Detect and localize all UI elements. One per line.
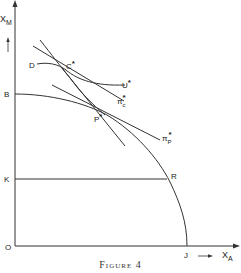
curve-label-pi-c: πc* <box>117 93 127 108</box>
curve-label-u-star: U* <box>122 78 132 90</box>
point-label-p-star: P* <box>94 112 103 124</box>
point-label-r: R <box>171 172 177 181</box>
point-label-b: B <box>4 90 9 99</box>
price-line-pi-c <box>33 46 124 101</box>
y-axis-arrowhead-icon <box>13 0 18 7</box>
indifference-curve-u-star <box>37 63 125 85</box>
steep-curve-through-c-star <box>40 40 105 115</box>
axes <box>15 4 236 246</box>
y-axis-label: XM <box>0 14 12 26</box>
x-direction-arrowhead-icon <box>208 254 213 257</box>
x-axis-arrowhead-icon <box>233 244 240 249</box>
origin-label: O <box>5 243 11 252</box>
point-label-d: D <box>29 61 35 70</box>
curve-label-pi-p: πP* <box>162 130 173 145</box>
price-line-pi-p <box>52 85 160 140</box>
diagram-figure: XM XA O B K R J D C* P* U* πc* πP* <box>0 0 241 273</box>
figure-caption: Figure 4 <box>0 259 241 270</box>
point-label-c-star: C* <box>66 59 76 71</box>
y-direction-arrowhead-icon <box>6 37 9 42</box>
line-c-star-to-p-star <box>62 68 125 146</box>
point-label-k: K <box>4 175 10 184</box>
